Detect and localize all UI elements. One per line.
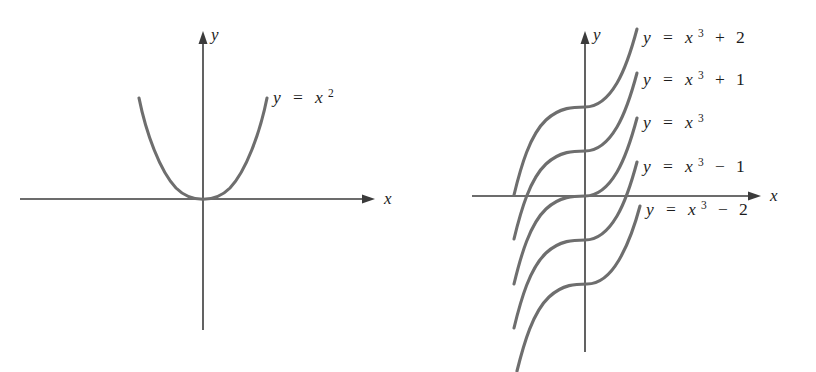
curve-label-cubic-minus-2-base: x (687, 199, 696, 219)
curve-cubic-minus-2 (517, 206, 640, 371)
curve-cubic-minus-1 (514, 162, 637, 328)
right-y-axis (581, 31, 590, 352)
curve-label-cubic-minus-1-constant: 1 (736, 156, 745, 176)
curve-label-cubic-zero-exponent: 3 (698, 112, 704, 124)
curve-label-cubic-plus-1: y = x 3 + 1 (641, 63, 745, 89)
curve-label-cubic-plus-1-lhs: y (641, 69, 651, 89)
left-y-axis-label: y (209, 25, 219, 44)
curve-label-cubic-minus-2-lhs: y (644, 199, 654, 219)
curve-label-cubic-minus-1-exponent: 3 (698, 156, 704, 168)
curve-label-cubic-minus-1-eq: = (663, 156, 673, 176)
left-panel-group: y x y = x 2 (20, 25, 392, 330)
curve-label-cubic-plus-1-eq: = (663, 69, 673, 89)
left-x-axis-label: x (383, 189, 392, 208)
curve-label-cubic-plus-1-op: + (715, 69, 725, 89)
right-x-axis-arrowhead (748, 192, 761, 201)
curve-label-cubic-plus-2-constant: 2 (736, 27, 745, 47)
curve-label-cubic-minus-2: y = x 3 − 2 (644, 193, 748, 219)
curve-label-cubic-zero-eq: = (663, 112, 673, 132)
curve-label-cubic-minus-1-base: x (684, 156, 693, 176)
curve-label-cubic-minus-1-lhs: y (641, 156, 651, 176)
curve-label-parabola: y = x 2 (271, 87, 334, 107)
curve-label-cubic-minus-2-eq: = (666, 199, 676, 219)
right-y-axis-arrowhead (581, 31, 590, 44)
curve-label-parabola-lhs: y (271, 87, 281, 107)
curve-label-cubic-minus-2-op: − (718, 199, 728, 219)
left-x-axis-arrowhead (362, 195, 375, 204)
curve-label-cubic-zero-base: x (684, 112, 693, 132)
curve-label-cubic-minus-2-constant: 2 (739, 199, 748, 219)
curve-label-parabola-exponent: 2 (328, 87, 334, 99)
figure-canvas: y x y = x 2 (0, 0, 816, 372)
curve-label-parabola-base: x (314, 87, 323, 107)
curve-label-cubic-zero-lhs: y (641, 112, 651, 132)
curve-label-cubic-minus-2-exponent: 3 (701, 199, 707, 211)
curve-label-cubic-plus-2: y = x 3 + 2 (641, 21, 745, 47)
curve-label-cubic-zero: y = x 3 (641, 112, 704, 132)
right-x-axis-label: x (769, 186, 778, 205)
left-y-axis-arrowhead (199, 31, 208, 44)
curve-label-cubic-minus-1: y = x 3 − 1 (641, 150, 745, 176)
curve-label-parabola-eq: = (293, 87, 303, 107)
math-figure: y x y = x 2 (0, 0, 816, 372)
curve-label-cubic-plus-1-base: x (684, 69, 693, 89)
left-y-axis (199, 31, 208, 330)
curve-label-cubic-plus-2-eq: = (663, 27, 673, 47)
curve-label-cubic-minus-1-op: − (715, 156, 725, 176)
curve-label-cubic-plus-2-exponent: 3 (698, 27, 704, 39)
curve-label-cubic-plus-1-constant: 1 (736, 69, 745, 89)
right-panel-group: y x y = x 3 + 2 y = x 3 + 1 y (472, 21, 778, 371)
curve-label-cubic-plus-2-lhs: y (641, 27, 651, 47)
right-y-axis-label: y (591, 25, 601, 44)
curve-label-cubic-plus-2-base: x (684, 27, 693, 47)
curve-label-cubic-plus-2-op: + (715, 27, 725, 47)
curve-label-cubic-plus-1-exponent: 3 (698, 69, 704, 81)
